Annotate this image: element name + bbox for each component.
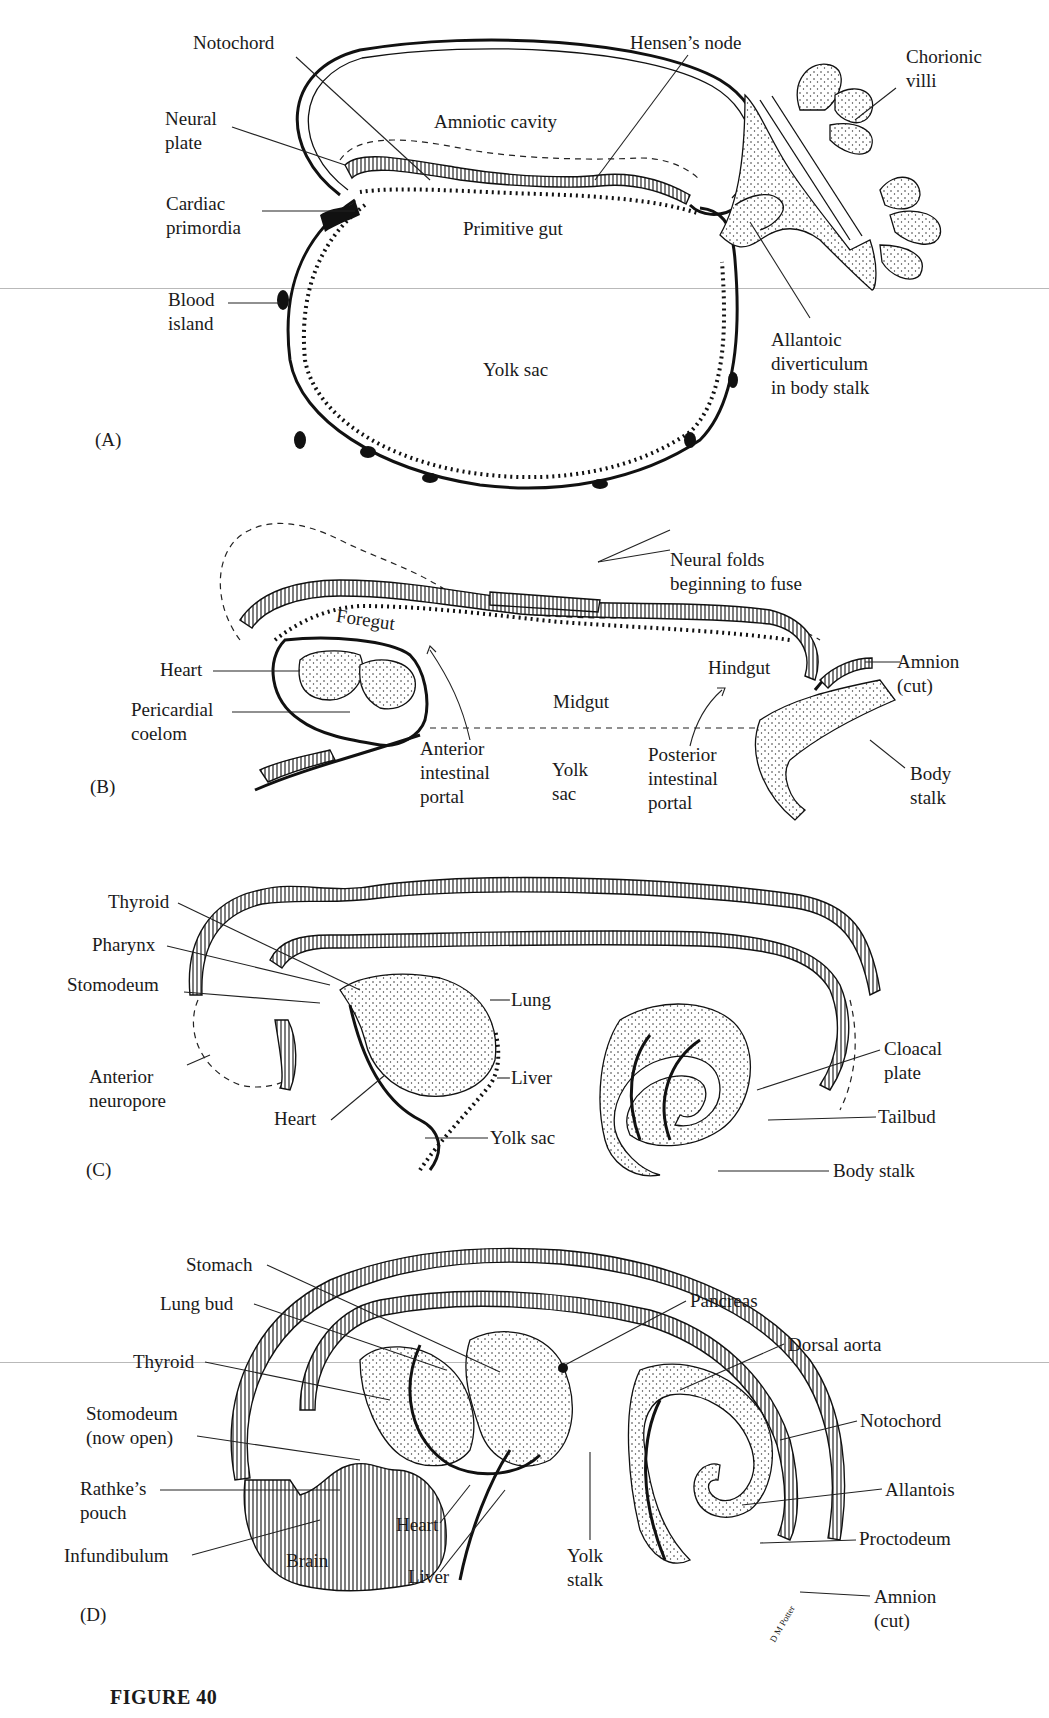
label-stomodeum-c: Stomodeum [67, 973, 159, 997]
label-notochord-a: Notochord [193, 31, 274, 55]
label-pericardial-coelom: Pericardial coelom [131, 698, 213, 746]
label-posterior-intestinal-portal: Posterior intestinal portal [648, 743, 718, 815]
label-chorionic-villi: Chorionic villi [906, 45, 982, 93]
label-heart-b: Heart [160, 658, 202, 682]
label-body-stalk-b: Body stalk [910, 762, 951, 810]
label-proctodeum: Proctodeum [859, 1527, 951, 1551]
label-amniotic-cavity: Amniotic cavity [434, 110, 557, 134]
label-cardiac-primordia: Cardiac primordia [166, 192, 241, 240]
label-thyroid-c: Thyroid [108, 890, 169, 914]
label-rathkes-pouch: Rathke’s pouch [80, 1477, 147, 1525]
label-stomodeum-d: Stomodeum (now open) [86, 1402, 178, 1450]
label-liver-d: Liver [408, 1565, 449, 1589]
panel-d-drawing [160, 1248, 882, 1596]
label-tailbud: Tailbud [878, 1105, 936, 1129]
label-yolk-sac-b: Yolk sac [552, 758, 588, 806]
label-pharynx: Pharynx [92, 933, 155, 957]
label-body-stalk-c: Body stalk [833, 1159, 915, 1183]
label-blood-island: Blood island [168, 288, 214, 336]
label-allantoic-diverticulum: Allantoic diverticulum in body stalk [771, 328, 869, 400]
label-stomach: Stomach [186, 1253, 253, 1277]
label-anterior-intestinal-portal: Anterior intestinal portal [420, 737, 490, 809]
label-midgut: Midgut [553, 690, 609, 714]
label-pancreas: Pancreas [690, 1289, 758, 1313]
label-hensens-node: Hensen’s node [630, 31, 741, 55]
label-primitive-gut: Primitive gut [463, 217, 563, 241]
label-neural-plate: Neural plate [165, 107, 217, 155]
label-thyroid-d: Thyroid [133, 1350, 194, 1374]
label-amnion-cut-d: Amnion (cut) [874, 1585, 936, 1633]
label-heart-d: Heart [396, 1513, 438, 1537]
label-yolk-stalk: Yolk stalk [567, 1544, 603, 1592]
panel-a-drawing [228, 40, 941, 489]
label-allantois: Allantois [885, 1478, 955, 1502]
label-liver-c: Liver [511, 1066, 552, 1090]
label-lung: Lung [511, 988, 551, 1012]
label-yolk-sac-c: Yolk sac [490, 1126, 555, 1150]
label-amnion-cut-b: Amnion (cut) [897, 650, 959, 698]
embryo-illustration [0, 0, 1049, 1718]
figure-caption: FIGURE 40 [110, 1686, 217, 1709]
label-hindgut: Hindgut [708, 656, 770, 680]
label-anterior-neuropore: Anterior neuropore [89, 1065, 166, 1113]
label-neural-folds: Neural folds beginning to fuse [670, 548, 802, 596]
label-heart-c: Heart [274, 1107, 316, 1131]
label-infundibulum: Infundibulum [64, 1544, 169, 1568]
panel-letter-c: (C) [86, 1158, 111, 1182]
panel-letter-b: (B) [90, 775, 115, 799]
label-notochord-d: Notochord [860, 1409, 941, 1433]
panel-letter-a: (A) [95, 428, 121, 452]
label-lung-bud: Lung bud [160, 1292, 233, 1316]
label-brain: Brain [286, 1549, 328, 1573]
label-dorsal-aorta: Dorsal aorta [788, 1333, 881, 1357]
panel-letter-d: (D) [80, 1603, 106, 1627]
label-yolk-sac-a: Yolk sac [483, 358, 548, 382]
label-cloacal-plate: Cloacal plate [884, 1037, 942, 1085]
figure-canvas: Notochord Hensen’s node Chorionic villi … [0, 0, 1049, 1718]
